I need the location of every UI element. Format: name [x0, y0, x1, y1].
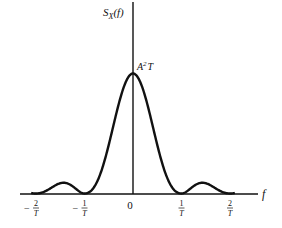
- svg-text:2: 2: [228, 199, 232, 208]
- svg-text:1: 1: [83, 199, 87, 208]
- x-tick-label: 0: [127, 199, 133, 211]
- x-tick-label: 1T: [179, 199, 185, 218]
- x-tick-label: −1T: [73, 199, 88, 218]
- svg-text:1: 1: [180, 199, 184, 208]
- svg-text:−: −: [24, 203, 30, 214]
- peak-label: A2T: [136, 60, 155, 72]
- psd-chart: SX(f) A2T f −2T−1T01T2T: [0, 0, 282, 228]
- svg-text:T: T: [82, 209, 87, 218]
- x-axis-label: f: [262, 187, 267, 201]
- svg-text:T: T: [228, 209, 233, 218]
- svg-text:−: −: [73, 203, 79, 214]
- svg-text:2: 2: [34, 199, 38, 208]
- svg-text:T: T: [179, 209, 184, 218]
- svg-text:T: T: [34, 209, 39, 218]
- x-tick-label: 2T: [227, 199, 233, 218]
- x-tick-label: −2T: [24, 199, 39, 218]
- y-axis-label: SX(f): [103, 6, 124, 21]
